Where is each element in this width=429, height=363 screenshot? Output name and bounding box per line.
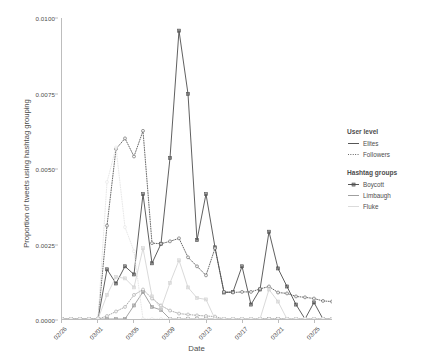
data-point (304, 318, 307, 319)
data-point (70, 318, 73, 319)
data-point (186, 92, 189, 95)
legend-label: Elites (363, 140, 378, 147)
data-point (223, 290, 226, 293)
data-point (123, 265, 126, 268)
legend-item-limbaugh[interactable]: Limbaugh (347, 190, 429, 201)
data-point (114, 275, 117, 278)
data-point (106, 181, 109, 184)
data-point (250, 290, 253, 293)
data-point (115, 146, 118, 149)
data-point (267, 230, 270, 233)
data-point (178, 237, 181, 240)
x-tick-mark (314, 320, 315, 323)
data-point (168, 281, 171, 284)
data-point (141, 193, 144, 196)
data-point (168, 156, 171, 159)
data-point (79, 318, 82, 319)
data-point (304, 296, 307, 299)
y-tick-mark (55, 93, 58, 94)
data-point (187, 318, 190, 319)
legend-item-fluke[interactable]: Fluke (347, 201, 429, 212)
data-point (214, 318, 217, 319)
x-tick-mark (97, 320, 98, 323)
data-point (214, 247, 217, 250)
data-point (268, 285, 271, 288)
y-tick-mark (55, 320, 58, 321)
data-point (331, 300, 332, 303)
data-point (232, 291, 235, 294)
data-point (276, 267, 279, 270)
data-point (177, 259, 180, 262)
legend-key-icon (347, 138, 360, 149)
data-point (204, 193, 207, 196)
y-tick-label: 0.0075 (35, 90, 55, 97)
chart-container: 0.00000.00250.00500.00750.0100 Proportio… (0, 0, 429, 363)
y-tick-label: 0.0100 (35, 15, 55, 22)
legend-label: Limbaugh (363, 192, 391, 199)
data-point (295, 295, 298, 298)
data-point (178, 318, 181, 319)
data-point (142, 318, 145, 319)
legend-key-icon (347, 201, 360, 212)
data-point (295, 318, 298, 319)
x-tick-mark (206, 320, 207, 323)
y-tick-label: 0.0050 (35, 166, 55, 173)
legend-key-icon (347, 179, 360, 190)
data-point (141, 247, 144, 250)
legend-item-boycott[interactable]: Boycott (347, 179, 429, 190)
data-point (88, 318, 91, 319)
data-point (169, 318, 172, 319)
data-point (187, 313, 190, 316)
data-point (169, 240, 172, 243)
data-point (187, 256, 190, 259)
data-point (322, 318, 325, 319)
data-point (286, 318, 289, 319)
data-point (151, 318, 154, 319)
data-point (97, 318, 100, 319)
data-point (142, 129, 145, 132)
data-point (241, 318, 244, 319)
series-line (62, 248, 332, 319)
data-point (124, 137, 127, 140)
data-point (195, 296, 198, 299)
data-point (142, 288, 145, 291)
data-point (232, 318, 235, 319)
data-point (133, 293, 136, 296)
y-tick-mark (55, 18, 58, 19)
x-tick-mark (169, 320, 170, 323)
y-tick-mark (55, 244, 58, 245)
data-point (312, 301, 315, 304)
data-point (196, 265, 199, 268)
x-tick-mark (242, 320, 243, 323)
legend-label: Followers (363, 151, 390, 158)
data-point (132, 304, 135, 307)
legend-hashtag-groups: Hashtag groupsBoycottLimbaughFluke (347, 169, 429, 212)
data-point (276, 300, 279, 303)
data-point (151, 242, 154, 245)
data-point (169, 309, 172, 312)
legend-title: User level (347, 128, 429, 135)
x-axis-title: Date (61, 344, 332, 353)
y-axis-title: Proportion of tweets using hashtag group… (22, 59, 31, 289)
data-point (223, 318, 226, 319)
data-point (105, 268, 108, 271)
legend-item-elites[interactable]: Elites (347, 138, 429, 149)
legend-area: User levelElitesFollowersHashtag groupsB… (347, 128, 429, 221)
data-point (114, 317, 117, 319)
data-point (195, 239, 198, 242)
legend-item-followers[interactable]: Followers (347, 149, 429, 160)
data-point (259, 318, 262, 319)
plot-panel (61, 18, 332, 320)
data-point (277, 318, 280, 319)
data-point (150, 262, 153, 265)
data-point (286, 292, 289, 295)
data-point (123, 317, 126, 319)
data-point (150, 295, 153, 298)
data-point (133, 250, 136, 253)
y-tick-label: 0.0025 (35, 241, 55, 248)
data-point (160, 242, 163, 245)
data-point (160, 318, 163, 319)
data-point (205, 274, 208, 277)
legend-title: Hashtag groups (347, 169, 429, 176)
data-point (124, 226, 127, 229)
